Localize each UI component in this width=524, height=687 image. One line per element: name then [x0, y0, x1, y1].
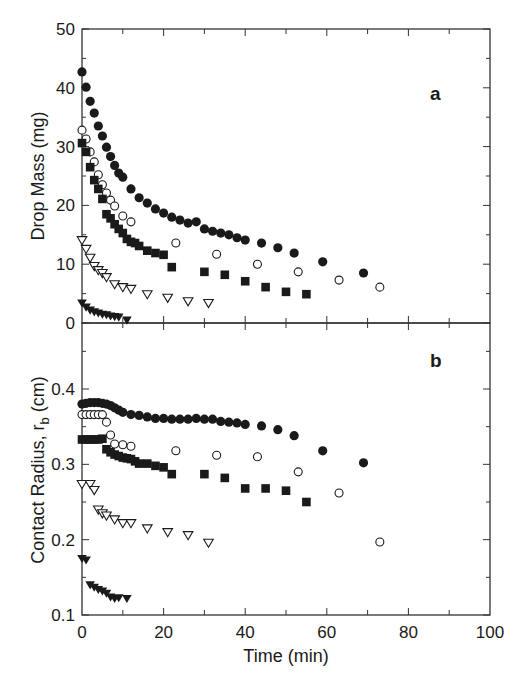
filled-square-marker [241, 484, 250, 493]
y-tick-label-b: 0.4 [51, 380, 75, 399]
y-axis-title-b-subscript: b [37, 417, 52, 424]
filled-circle-marker [183, 415, 192, 424]
open-triangle-marker [142, 291, 152, 299]
panel-label-b: b [430, 350, 442, 371]
filled-circle-marker [159, 208, 168, 217]
y-tick-label-b: 0.1 [51, 606, 75, 625]
open-triangle-marker [85, 254, 95, 262]
open-triangle-marker [163, 529, 173, 537]
y-axis-title-b: Contact Radius, rb (cm) [28, 376, 52, 563]
filled-circle-marker [359, 458, 368, 467]
open-circle-marker [253, 260, 261, 268]
open-circle-marker [119, 441, 127, 449]
filled-circle-marker [232, 233, 241, 242]
filled-circle-marker [143, 412, 152, 421]
open-triangle-marker [163, 294, 173, 302]
open-circle-marker [127, 442, 135, 450]
filled-square-marker [90, 176, 99, 185]
filled-circle-marker [359, 268, 368, 277]
open-circle-marker [213, 451, 221, 459]
filled-circle-marker [224, 418, 233, 427]
filled-circle-marker [183, 218, 192, 227]
filled-circle-marker [192, 414, 201, 423]
filled-circle-marker [318, 257, 327, 266]
filled-circle-marker [98, 131, 107, 140]
open-circle-marker [111, 440, 119, 448]
open-circle-marker [172, 447, 180, 455]
x-tick-label: 80 [399, 623, 418, 642]
filled-square-marker [78, 139, 87, 148]
filled-circle-marker [94, 121, 103, 130]
panel-label-a: a [430, 83, 441, 104]
filled-circle-marker [77, 67, 86, 76]
y-tick-label-a: 0 [66, 314, 75, 333]
filled-circle-marker [273, 425, 282, 434]
filled-circle-marker [175, 216, 184, 225]
y-tick-label-a: 40 [56, 79, 75, 98]
filled-square-marker [302, 290, 311, 299]
open-circle-marker [107, 431, 115, 439]
open-circle-marker [119, 212, 127, 220]
filled-square-marker [167, 470, 176, 479]
filled-square-marker [143, 459, 152, 468]
open-circle-marker [98, 411, 106, 419]
filled-square-marker [151, 249, 160, 258]
x-tick-label: 0 [77, 623, 86, 642]
filled-square-marker [261, 283, 270, 292]
open-triangle-marker [204, 300, 214, 308]
open-circle-marker [335, 489, 343, 497]
figure: 010203040500.10.20.30.4020406080100 a b … [0, 0, 524, 687]
y-axis-title-b-main: Contact Radius, r [28, 425, 48, 564]
filled-square-marker [98, 434, 107, 443]
filled-circle-marker [257, 421, 266, 430]
filled-square-marker [221, 474, 230, 483]
filled-square-marker [221, 270, 230, 279]
filled-square-marker [200, 470, 209, 479]
filled-circle-marker [224, 230, 233, 239]
x-axis-title: Time (min) [243, 646, 328, 666]
x-tick-label: 40 [236, 623, 255, 642]
open-circle-marker [172, 239, 180, 247]
filled-circle-marker [135, 193, 144, 202]
x-tick-label: 100 [476, 623, 504, 642]
filled-circle-marker [167, 415, 176, 424]
open-triangle-marker [77, 480, 87, 488]
filled-circle-marker [273, 243, 282, 252]
filled-square-marker [282, 288, 291, 297]
y-tick-label-a: 20 [56, 196, 75, 215]
tick-labels: 010203040500.10.20.30.4020406080100 [51, 20, 504, 642]
x-tick-label: 60 [317, 623, 336, 642]
filled-circle-marker [86, 97, 95, 106]
filled-circle-marker [106, 152, 115, 161]
open-circle-marker [127, 218, 135, 226]
panel-a-data-points [77, 67, 384, 324]
filled-circle-marker [151, 204, 160, 213]
filled-circle-marker [208, 227, 217, 236]
filled-circle-marker [290, 248, 299, 257]
filled-circle-marker [118, 173, 127, 182]
open-triangle-marker [81, 245, 91, 253]
y-tick-label-b: 0.3 [51, 455, 75, 474]
filled-triangle-marker [122, 595, 132, 603]
filled-circle-marker [102, 143, 111, 152]
filled-circle-marker [241, 420, 250, 429]
panel-b-data-points [77, 398, 384, 603]
y-tick-label-a: 10 [56, 255, 75, 274]
open-triangle-marker [183, 532, 193, 540]
open-triangle-marker [126, 520, 136, 528]
filled-square-marker [302, 498, 311, 507]
filled-circle-marker [118, 408, 127, 417]
filled-circle-marker [90, 108, 99, 117]
y-tick-label-b: 0.2 [51, 531, 75, 550]
filled-circle-marker [126, 184, 135, 193]
open-triangle-marker [183, 298, 193, 306]
open-triangle-marker [204, 539, 214, 547]
filled-square-marker [151, 462, 160, 471]
filled-circle-marker [241, 235, 250, 244]
filled-square-marker [282, 486, 291, 495]
filled-circle-marker [192, 217, 201, 226]
y-axis-title-b-unit: (cm) [28, 376, 48, 417]
filled-circle-marker [200, 224, 209, 233]
plot-frame-a [82, 29, 490, 323]
y-tick-label-a: 50 [56, 20, 75, 39]
